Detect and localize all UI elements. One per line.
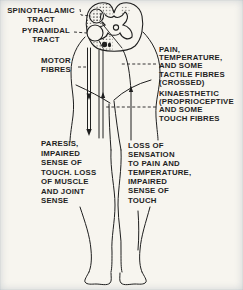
central-canal	[113, 25, 118, 30]
label-spinothalamic-tract: SPINOTHALAMIC TRACT	[1, 7, 81, 24]
right-leg-outer	[140, 207, 150, 272]
pyramidal-tract-circle	[87, 25, 103, 41]
left-leg-outer	[80, 207, 91, 272]
label-motor-fibres: MOTOR FIBRES	[36, 57, 76, 74]
sensory-ascending-line	[123, 50, 131, 140]
label-loss-of-sensation-outcome: LOSS OF SENSATION TO PAIN AND TEMPERATUR…	[128, 141, 212, 205]
label-paresis-outcome: PARESIS, IMPAIRED SENSE OF TOUCH. LOSS O…	[41, 139, 111, 206]
left-foot	[85, 272, 111, 285]
motor-arrow-end	[86, 129, 91, 136]
label-kinaesthetic-fibres: KINAESTHETIC (PROPRIOCEPTIVE AND SOME TO…	[159, 90, 243, 123]
label-pyramidal-tract: PYRAMIDAL TRACT	[18, 27, 74, 44]
ventral-root-mark	[102, 42, 107, 48]
torso-right-edge	[143, 32, 160, 140]
crossing-arc-left	[76, 85, 110, 103]
ventral-root-mark-2	[108, 43, 111, 47]
left-leg-inner	[111, 150, 115, 272]
right-leg-inner	[118, 150, 122, 272]
sensory-leg-segment	[138, 211, 139, 250]
kinaesthetic-arrow-up	[101, 92, 105, 98]
label-pain-temperature-fibres: PAIN, TEMPERATURE, AND SOME TACTILE FIBR…	[159, 46, 241, 87]
crossing-descender-right	[114, 101, 121, 150]
right-foot	[120, 272, 146, 285]
crossing-arc-right	[114, 80, 151, 100]
spinal-cord-cross-section	[86, 3, 142, 52]
figure-canvas: SPINOTHALAMIC TRACT PYRAMIDAL TRACT MOTO…	[0, 0, 243, 290]
leader-pyramidal	[74, 32, 87, 33]
torso-left-edge	[70, 37, 85, 142]
